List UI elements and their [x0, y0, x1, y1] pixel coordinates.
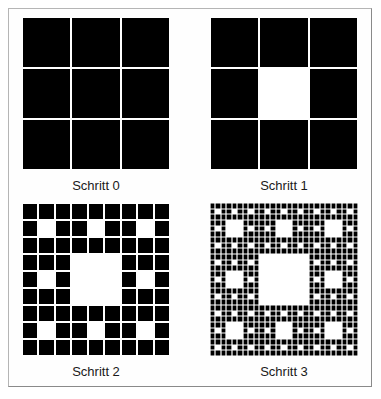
carpet-cell [22, 339, 38, 356]
carpet-cell [353, 350, 358, 356]
carpet-cell [38, 203, 54, 220]
sierpinski-carpet-step-3 [210, 203, 358, 356]
carpet-cell [259, 17, 308, 68]
carpet-cell [71, 322, 87, 339]
carpet-cell [22, 322, 38, 339]
carpet-cell [71, 339, 87, 356]
panel-step-0: Schritt 0 [22, 17, 170, 170]
carpet-cell [154, 254, 170, 271]
carpet-cell [71, 17, 120, 68]
carpet-cell [104, 254, 120, 271]
carpet-cell [154, 288, 170, 305]
carpet-cell [22, 220, 38, 237]
carpet-cell [88, 237, 104, 254]
carpet-cell [137, 288, 153, 305]
carpet-cell [22, 203, 38, 220]
carpet-cell [88, 339, 104, 356]
carpet-cell [55, 271, 71, 288]
carpet-cell [71, 220, 87, 237]
carpet-cell [309, 119, 358, 170]
carpet-cell [210, 68, 259, 119]
carpet-cell [154, 322, 170, 339]
carpet-cell [154, 305, 170, 322]
carpet-cell [55, 254, 71, 271]
carpet-cell [22, 271, 38, 288]
carpet-cell [88, 254, 104, 271]
carpet-cell [88, 305, 104, 322]
carpet-cell [88, 322, 104, 339]
carpet-cell [55, 305, 71, 322]
carpet-cell [22, 254, 38, 271]
carpet-cell [55, 322, 71, 339]
carpet-cell [121, 322, 137, 339]
carpet-cell [38, 237, 54, 254]
carpet-cell [104, 220, 120, 237]
carpet-cell [88, 203, 104, 220]
carpet-cell [210, 17, 259, 68]
carpet-cell [71, 237, 87, 254]
carpet-cell [154, 220, 170, 237]
carpet-cell [137, 271, 153, 288]
carpet-cell [309, 68, 358, 119]
carpet-cell [71, 288, 87, 305]
carpet-cell [121, 288, 137, 305]
carpet-cell [38, 271, 54, 288]
carpet-cell [104, 203, 120, 220]
carpet-cell [55, 339, 71, 356]
carpet-cell [154, 339, 170, 356]
carpet-cell [38, 254, 54, 271]
carpet-cell [121, 339, 137, 356]
carpet-cell [104, 339, 120, 356]
carpet-cell [121, 254, 137, 271]
carpet-cell [121, 271, 137, 288]
carpet-cell [259, 119, 308, 170]
carpet-cell [104, 288, 120, 305]
carpet-cell [121, 68, 170, 119]
carpet-cell [71, 203, 87, 220]
panel-step-1: Schritt 1 [210, 17, 358, 170]
carpet-cell [38, 288, 54, 305]
panel-step-3: Schritt 3 [210, 203, 358, 356]
carpet-cell [22, 17, 71, 68]
carpet-cell [38, 322, 54, 339]
caption-step-2: Schritt 2 [22, 364, 170, 379]
carpet-cell [121, 305, 137, 322]
carpet-cell [55, 203, 71, 220]
carpet-cell [55, 288, 71, 305]
carpet-cell [71, 305, 87, 322]
carpet-cell [71, 68, 120, 119]
carpet-cell [137, 305, 153, 322]
carpet-cell [154, 203, 170, 220]
sierpinski-carpet-step-0 [22, 17, 170, 170]
caption-step-3: Schritt 3 [210, 364, 358, 379]
caption-step-1: Schritt 1 [210, 178, 358, 193]
carpet-cell [121, 237, 137, 254]
carpet-cell [137, 237, 153, 254]
carpet-cell [121, 17, 170, 68]
carpet-cell [88, 271, 104, 288]
carpet-cell [104, 322, 120, 339]
carpet-cell [137, 220, 153, 237]
carpet-cell [71, 254, 87, 271]
sierpinski-carpet-step-2 [22, 203, 170, 356]
carpet-cell [22, 68, 71, 119]
carpet-cell [55, 220, 71, 237]
carpet-cell [88, 220, 104, 237]
carpet-cell [88, 288, 104, 305]
carpet-cell [121, 220, 137, 237]
carpet-cell [104, 271, 120, 288]
carpet-cell [259, 68, 308, 119]
carpet-cell [22, 305, 38, 322]
carpet-cell [22, 237, 38, 254]
carpet-cell [137, 339, 153, 356]
carpet-cell [121, 119, 170, 170]
carpet-cell [137, 254, 153, 271]
carpet-cell [121, 203, 137, 220]
carpet-cell [38, 305, 54, 322]
carpet-cell [137, 322, 153, 339]
sierpinski-carpet-step-1 [210, 17, 358, 170]
carpet-cell [38, 339, 54, 356]
carpet-cell [137, 203, 153, 220]
carpet-cell [210, 119, 259, 170]
carpet-cell [22, 288, 38, 305]
